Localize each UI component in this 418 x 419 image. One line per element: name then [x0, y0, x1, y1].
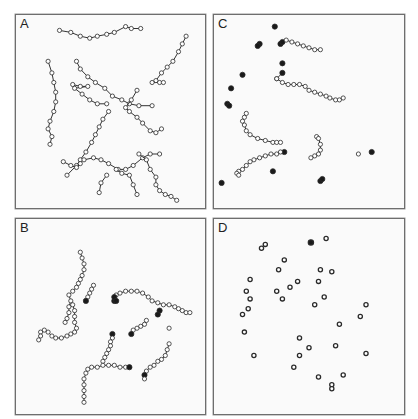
open-point-marker — [74, 165, 78, 169]
open-point-marker — [137, 104, 141, 108]
open-point-marker — [69, 163, 73, 167]
open-point-marker — [316, 136, 320, 140]
track-c-12 — [235, 149, 287, 177]
open-point-marker — [78, 250, 82, 254]
open-point-marker — [263, 242, 267, 246]
open-point-marker — [99, 158, 103, 162]
filled-point-marker — [280, 61, 285, 66]
open-point-marker — [280, 297, 284, 301]
panel-b: B — [15, 218, 206, 415]
open-point-marker — [277, 268, 281, 272]
track-b-6 — [129, 318, 149, 336]
filled-point-marker — [369, 149, 374, 154]
open-point-marker — [156, 301, 160, 305]
open-point-marker — [82, 377, 86, 381]
open-point-marker — [297, 336, 301, 340]
open-point-marker — [86, 75, 90, 79]
open-point-marker — [297, 82, 301, 86]
open-point-marker — [48, 142, 52, 146]
track-b-7 — [101, 331, 115, 363]
open-point-marker — [90, 365, 94, 369]
track-b-1 — [37, 303, 79, 342]
open-point-marker — [148, 167, 152, 171]
open-point-marker — [80, 256, 84, 260]
open-point-marker — [316, 279, 320, 283]
track-d-1 — [259, 246, 263, 250]
open-point-marker — [93, 133, 97, 137]
open-point-marker — [309, 156, 313, 160]
open-point-marker — [175, 198, 179, 202]
open-point-marker — [161, 303, 165, 307]
track-c-5 — [240, 72, 245, 77]
open-point-marker — [82, 394, 86, 398]
open-point-marker — [364, 351, 368, 355]
track-d-24 — [297, 336, 301, 340]
filled-point-marker — [229, 86, 234, 91]
open-point-marker — [73, 320, 77, 324]
open-point-marker — [118, 365, 122, 369]
open-point-marker — [341, 96, 345, 100]
trajectory-plot-c — [214, 15, 404, 208]
filled-point-marker — [129, 331, 134, 336]
open-point-marker — [180, 42, 184, 46]
track-d-32 — [341, 373, 345, 377]
open-point-marker — [282, 258, 286, 262]
open-point-marker — [135, 88, 139, 92]
open-point-marker — [52, 109, 56, 113]
open-point-marker — [135, 115, 139, 119]
open-point-marker — [313, 90, 317, 94]
track-d-22 — [337, 322, 341, 326]
filled-point-marker — [114, 298, 119, 303]
open-point-marker — [82, 262, 86, 266]
open-point-marker — [82, 383, 86, 387]
open-point-marker — [129, 26, 133, 30]
open-point-marker — [318, 48, 322, 52]
open-point-marker — [278, 140, 282, 144]
track-d-23 — [242, 330, 246, 334]
panel-d: D — [213, 218, 405, 415]
open-point-marker — [284, 38, 288, 42]
open-point-marker — [263, 138, 267, 142]
open-point-marker — [82, 389, 86, 393]
filled-point-marker — [227, 103, 232, 108]
open-point-marker — [275, 77, 279, 81]
open-point-marker — [124, 106, 128, 110]
track-a-3 — [74, 59, 154, 108]
open-point-marker — [318, 268, 322, 272]
track-d-5 — [277, 268, 281, 272]
open-point-marker — [307, 346, 311, 350]
track-d-4 — [282, 258, 286, 262]
open-point-marker — [158, 189, 162, 193]
track-d-25 — [334, 344, 338, 348]
open-point-marker — [330, 387, 334, 391]
open-point-marker — [74, 59, 78, 63]
track-a-2 — [46, 59, 58, 146]
open-point-marker — [337, 322, 341, 326]
open-point-marker — [78, 162, 82, 166]
open-point-marker — [65, 334, 69, 338]
open-point-marker — [313, 48, 317, 52]
open-point-marker — [131, 183, 135, 187]
open-point-marker — [108, 340, 112, 344]
open-point-marker — [292, 82, 296, 86]
open-point-marker — [52, 80, 56, 84]
open-point-marker — [50, 135, 54, 139]
track-b-8 — [167, 326, 171, 330]
open-point-marker — [78, 67, 82, 71]
track-a-4 — [124, 88, 164, 135]
track-d-3 — [324, 236, 328, 240]
open-point-marker — [292, 365, 296, 369]
open-point-marker — [141, 291, 145, 295]
open-point-marker — [163, 192, 167, 196]
open-point-marker — [95, 102, 99, 106]
open-point-marker — [275, 289, 279, 293]
open-point-marker — [296, 42, 300, 46]
open-point-marker — [252, 353, 256, 357]
open-point-marker — [142, 377, 146, 381]
open-point-marker — [158, 152, 162, 156]
track-c-3 — [284, 38, 322, 52]
open-point-marker — [54, 90, 58, 94]
open-point-marker — [74, 285, 78, 289]
open-point-marker — [97, 125, 101, 129]
track-d-2 — [308, 240, 313, 245]
